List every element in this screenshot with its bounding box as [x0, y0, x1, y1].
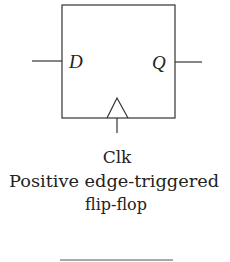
clock-edge-triangle-icon [107, 98, 128, 118]
flip-flop-diagram: D Q Clk Positive edge-triggered flip-flo… [0, 0, 230, 262]
clock-label: Clk [103, 147, 132, 167]
caption-line-2: flip-flop [85, 195, 147, 214]
caption-line-1: Positive edge-triggered [9, 172, 219, 191]
q-label: Q [152, 52, 166, 73]
d-label: D [68, 51, 83, 72]
